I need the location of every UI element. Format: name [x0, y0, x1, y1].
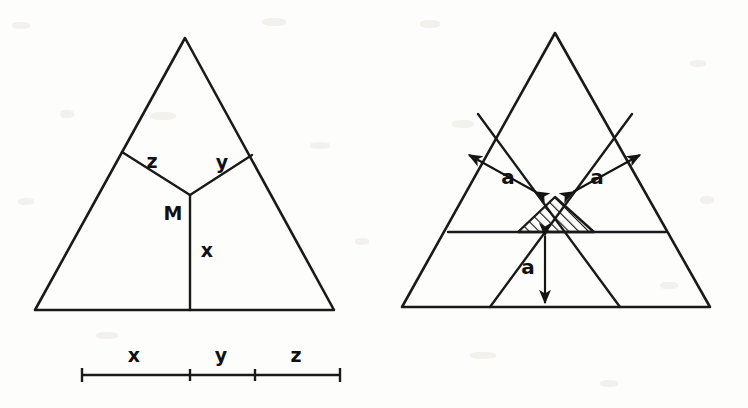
- ruler-label-y: y: [215, 344, 228, 366]
- geometry-figure: z y M x x y z: [0, 0, 748, 408]
- label-a-bottom: a: [521, 255, 535, 279]
- label-a-left: a: [501, 165, 515, 189]
- right-panel: a a a: [402, 33, 710, 307]
- left-triangle-outline: [35, 38, 334, 310]
- ruler-label-z: z: [290, 344, 301, 366]
- label-a-right: a: [590, 165, 604, 189]
- label-m: M: [164, 202, 183, 224]
- label-y: y: [216, 151, 229, 173]
- ruler-label-x: x: [128, 344, 140, 366]
- segment-ruler: x y z: [82, 344, 340, 383]
- distance-arrow-a-right: [573, 155, 640, 192]
- hatched-region: [518, 197, 594, 232]
- figure-root: z y M x x y z: [0, 0, 748, 408]
- left-panel: z y M x: [35, 38, 334, 310]
- label-x: x: [201, 239, 213, 261]
- label-z: z: [146, 150, 157, 172]
- right-triangle-outline: [402, 33, 710, 307]
